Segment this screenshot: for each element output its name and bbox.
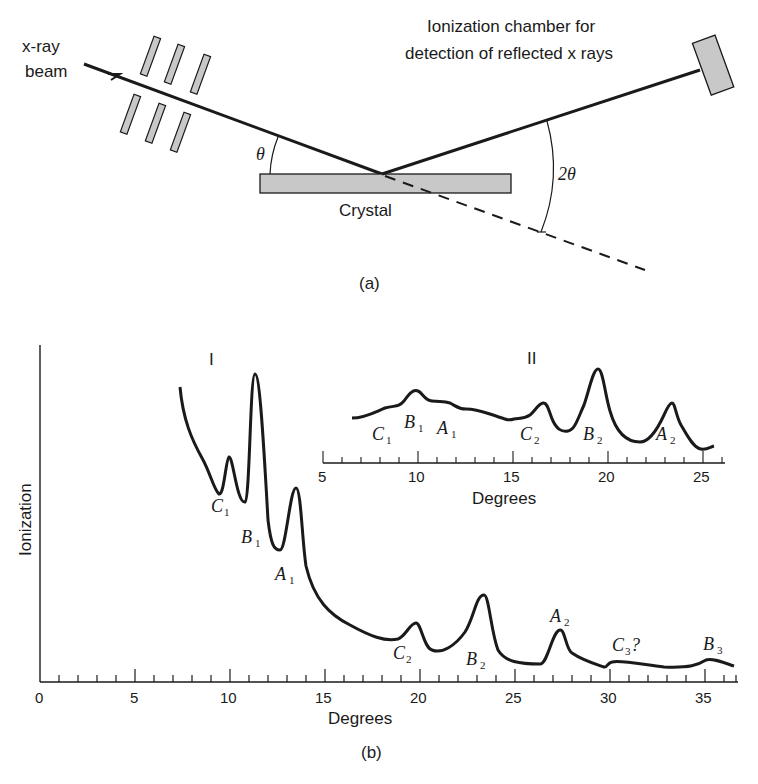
svg-text:20: 20	[598, 468, 615, 485]
inset-plot-II: II 5 10 15 20 25 Degrees C1 B1 A1	[318, 349, 725, 508]
svg-text:1: 1	[418, 422, 424, 434]
beam-label-line2: beam	[25, 62, 68, 81]
svg-text:A: A	[655, 424, 668, 444]
svg-text:A: A	[274, 564, 287, 584]
svg-text:25: 25	[693, 468, 710, 485]
svg-text:0: 0	[35, 689, 43, 706]
y-axis-label: Ionization	[16, 483, 35, 556]
svg-text:10: 10	[220, 689, 237, 706]
theta-label: θ	[256, 144, 265, 164]
caption-b: (b)	[361, 743, 382, 762]
svg-text:C: C	[393, 643, 406, 663]
undeviated-beam-dashed	[385, 176, 645, 270]
svg-text:1: 1	[255, 537, 261, 549]
svg-text:5: 5	[130, 689, 138, 706]
svg-text:C: C	[520, 424, 533, 444]
reflected-beam	[382, 70, 700, 174]
two-theta-arc	[541, 121, 553, 232]
svg-text:B: B	[583, 424, 594, 444]
svg-text:1: 1	[386, 434, 392, 446]
svg-text:2: 2	[670, 434, 676, 446]
beam-label-line1: x-ray	[22, 37, 60, 56]
crystal-label: Crystal	[339, 201, 392, 220]
svg-text:35: 35	[695, 689, 712, 706]
svg-text:?: ?	[631, 635, 640, 655]
svg-text:25: 25	[505, 689, 522, 706]
main-curve-I	[180, 374, 734, 667]
svg-text:5: 5	[318, 468, 326, 485]
svg-text:C: C	[612, 635, 625, 655]
svg-text:C: C	[372, 424, 385, 444]
svg-text:1: 1	[289, 574, 295, 586]
svg-text:15: 15	[503, 468, 520, 485]
diagram-a: x-ray beam Crystal Ionization chamber fo…	[22, 17, 734, 293]
svg-text:2: 2	[564, 616, 570, 628]
svg-text:2: 2	[534, 434, 540, 446]
svg-text:30: 30	[600, 689, 617, 706]
svg-text:15: 15	[315, 689, 332, 706]
svg-text:A: A	[549, 606, 562, 626]
diagram-b: 0 5 10 15 20 25 30 35 Degrees Ionization…	[16, 345, 738, 762]
ionization-chamber	[692, 35, 733, 95]
x-axis-ticks	[59, 669, 736, 682]
svg-text:A: A	[436, 418, 449, 438]
svg-text:B: B	[404, 412, 415, 432]
x-axis-label: Degrees	[328, 709, 392, 728]
svg-text:1: 1	[224, 506, 230, 518]
svg-text:2: 2	[480, 659, 486, 671]
inset-x-ticks	[323, 451, 722, 463]
svg-text:10: 10	[408, 468, 425, 485]
inset-x-axis-label: Degrees	[472, 489, 536, 508]
svg-text:B: B	[241, 527, 252, 547]
theta-arc	[270, 137, 278, 174]
caption-a: (a)	[359, 274, 380, 293]
series-label-II: II	[527, 349, 536, 368]
detector-label-line2: detection of reflected x rays	[405, 44, 613, 63]
series-label-I: I	[209, 350, 214, 369]
svg-text:B: B	[466, 649, 477, 669]
x-axis-tick-labels: 0 5 10 15 20 25 30 35	[35, 689, 712, 706]
svg-text:B: B	[703, 634, 714, 654]
inset-x-tick-labels: 5 10 15 20 25	[318, 468, 710, 485]
two-theta-label: 2θ	[558, 164, 576, 184]
svg-text:3: 3	[717, 644, 723, 656]
svg-text:2: 2	[406, 653, 412, 665]
svg-text:1: 1	[451, 428, 457, 440]
svg-text:C: C	[211, 496, 224, 516]
detector-label-line1: Ionization chamber for	[427, 17, 596, 36]
svg-text:20: 20	[410, 689, 427, 706]
figure-canvas: x-ray beam Crystal Ionization chamber fo…	[0, 0, 758, 784]
svg-text:2: 2	[597, 434, 603, 446]
